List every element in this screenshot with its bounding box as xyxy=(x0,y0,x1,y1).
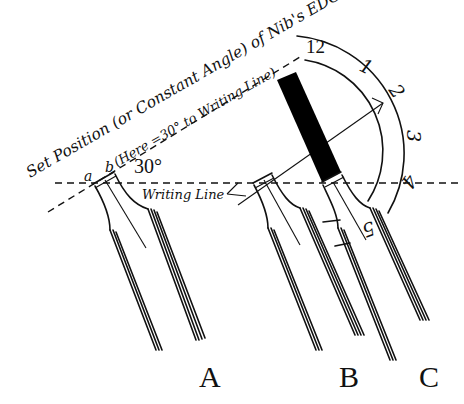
pen-shaft xyxy=(277,72,341,182)
edge-label-a: a xyxy=(84,168,92,184)
nib-label-a: A xyxy=(199,360,221,393)
calligraphy-nib-angle-diagram: Set Position (or Constant Angle) of Nib'… xyxy=(0,0,464,404)
nib-label-b: B xyxy=(339,360,359,393)
writing-line-label: Writing Line xyxy=(142,187,225,202)
clock-number-12: 12 xyxy=(306,36,325,57)
clock-number-2: 2 xyxy=(384,79,410,102)
angle-label: 30° xyxy=(134,155,162,177)
clock-number-4: 4 xyxy=(397,170,423,193)
nib-label-c: C xyxy=(419,360,439,393)
clock-number-3: 3 xyxy=(403,130,425,142)
